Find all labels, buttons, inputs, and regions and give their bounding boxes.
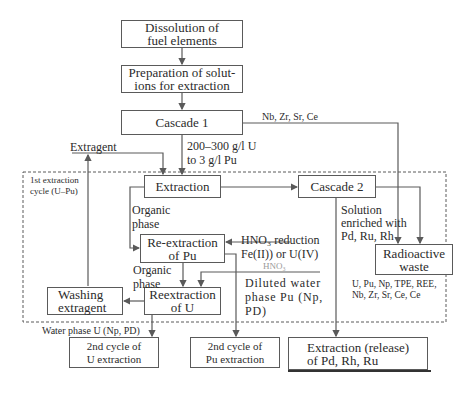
hno3-reduction-label: HNO₃ reduction Fe(II)) or U(IV) [241, 233, 320, 261]
organic-phase-label-2: Organic phase [133, 263, 171, 291]
cascade1-box: Cascade 1 [121, 110, 243, 135]
extraction-release-box: Extraction (release) of Pd, Rh, Ru [288, 337, 428, 370]
extragent-label: Extragent [70, 140, 117, 154]
diluted-water-label: Diluted water phase Pu (Np, PD) [245, 276, 323, 318]
concentration-label: 200–300 g/l U to 3 g/l Pu [187, 139, 256, 167]
water-phase-u-label: Water phase U (Np, PD) [42, 325, 140, 337]
hno3-label: HNO₃ [263, 259, 286, 273]
cycle-label: 1st extraction cycle (U–Pu) [30, 175, 79, 197]
second-cycle-pu-box: 2nd cycle of Pu extraction [190, 337, 280, 368]
waste-components-label: U, Pu, Np, TPE, REE, Nb, Zr, Sr, Ce, Ce [352, 279, 437, 301]
preparation-box: Preparation of solut- ions for extractio… [121, 65, 243, 93]
organic-phase-label-1: Organic phase [132, 203, 170, 231]
extraction-box: Extraction [144, 175, 221, 198]
cascade2-box: Cascade 2 [298, 175, 376, 198]
radioactive-waste-box: Radioactive waste [375, 244, 453, 275]
second-cycle-u-box: 2nd cycle of U extraction [69, 337, 159, 368]
nb-zr-label: Nb, Zr, Sr, Ce [262, 111, 318, 123]
reextraction-pu-box: Re-extraction of Pu [140, 234, 225, 263]
washing-extragent-box: Washing extragent [47, 287, 123, 315]
reextraction-u-box: Reextraction of U [144, 287, 221, 315]
dissolution-box: Dissolution of fuel elements [121, 20, 243, 48]
solution-enriched-label: Solution enriched with Pd, Ru, Rh [341, 204, 407, 243]
